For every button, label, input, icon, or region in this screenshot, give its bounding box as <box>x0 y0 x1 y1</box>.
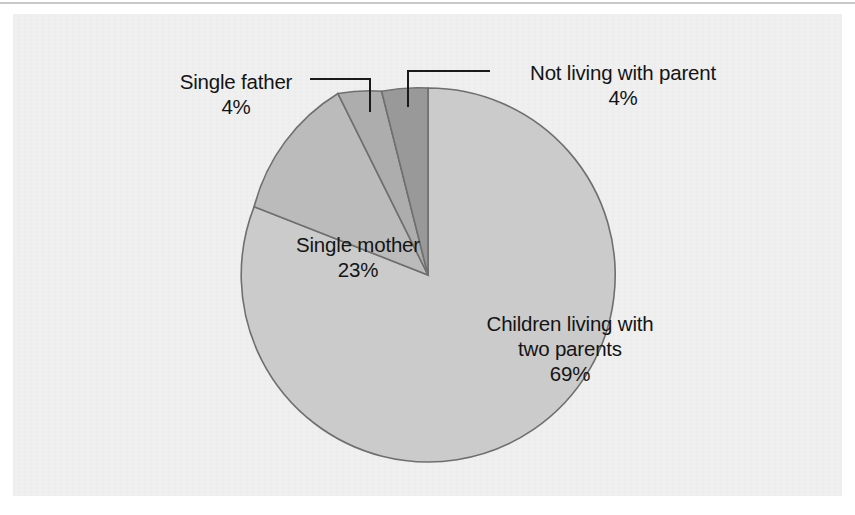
pie-label-not-living-with-parent-name: Not living with parent <box>530 61 716 84</box>
pie-label-single-mother-name: Single mother <box>296 233 420 256</box>
pie-label-single-mother: Single mother 23% <box>253 232 463 282</box>
pie-label-not-living-with-parent-value: 4% <box>498 85 748 110</box>
figure-panel: Single father 4% Not living with parent … <box>13 14 842 496</box>
pie-label-not-living-with-parent: Not living with parent 4% <box>498 60 748 110</box>
pie-label-children-two-parents-line2: two parents <box>455 336 685 361</box>
pie-label-single-father-value: 4% <box>146 94 326 119</box>
pie-label-single-father: Single father 4% <box>146 69 326 119</box>
pie-label-single-father-name: Single father <box>180 70 293 93</box>
pie-label-children-two-parents-value: 69% <box>455 361 685 386</box>
pie-label-children-two-parents: Children living with two parents 69% <box>455 311 685 386</box>
pie-label-single-mother-value: 23% <box>253 257 463 282</box>
pie-label-children-two-parents-line1: Children living with <box>487 312 654 335</box>
top-divider-rule <box>0 2 855 4</box>
